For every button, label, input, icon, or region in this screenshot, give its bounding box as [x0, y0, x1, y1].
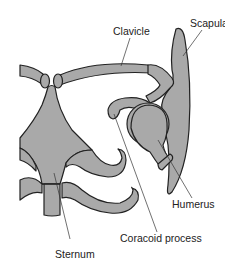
scapula: [162, 28, 190, 193]
clavicle-leader: [121, 38, 130, 66]
right-sc-joint: [54, 74, 63, 88]
label-scapula: Scapula: [190, 18, 225, 29]
label-sternum: Sternum: [55, 249, 95, 260]
left-clavicle: [20, 65, 43, 84]
right-rib-lower: [62, 182, 138, 213]
left-rib-lower: [20, 178, 42, 200]
right-clavicle: [60, 64, 152, 85]
label-clavicle: Clavicle: [113, 26, 150, 37]
label-coracoid-process: Coracoid process: [120, 233, 202, 244]
left-sc-joint: [41, 74, 50, 88]
sternum-body: [20, 86, 92, 185]
label-humerus: Humerus: [172, 199, 215, 210]
